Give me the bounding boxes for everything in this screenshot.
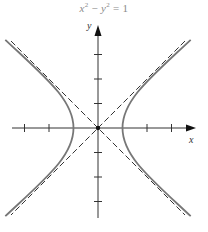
x-axis xyxy=(12,124,196,132)
hyperbola-plot xyxy=(0,0,208,232)
x-axis-arrow-icon xyxy=(186,125,196,132)
y-axis xyxy=(94,25,102,218)
y-axis-arrow-icon xyxy=(95,25,102,36)
y-axis-label: y xyxy=(87,20,91,31)
origin-dot xyxy=(96,126,100,130)
x-axis-label: x xyxy=(189,134,193,145)
